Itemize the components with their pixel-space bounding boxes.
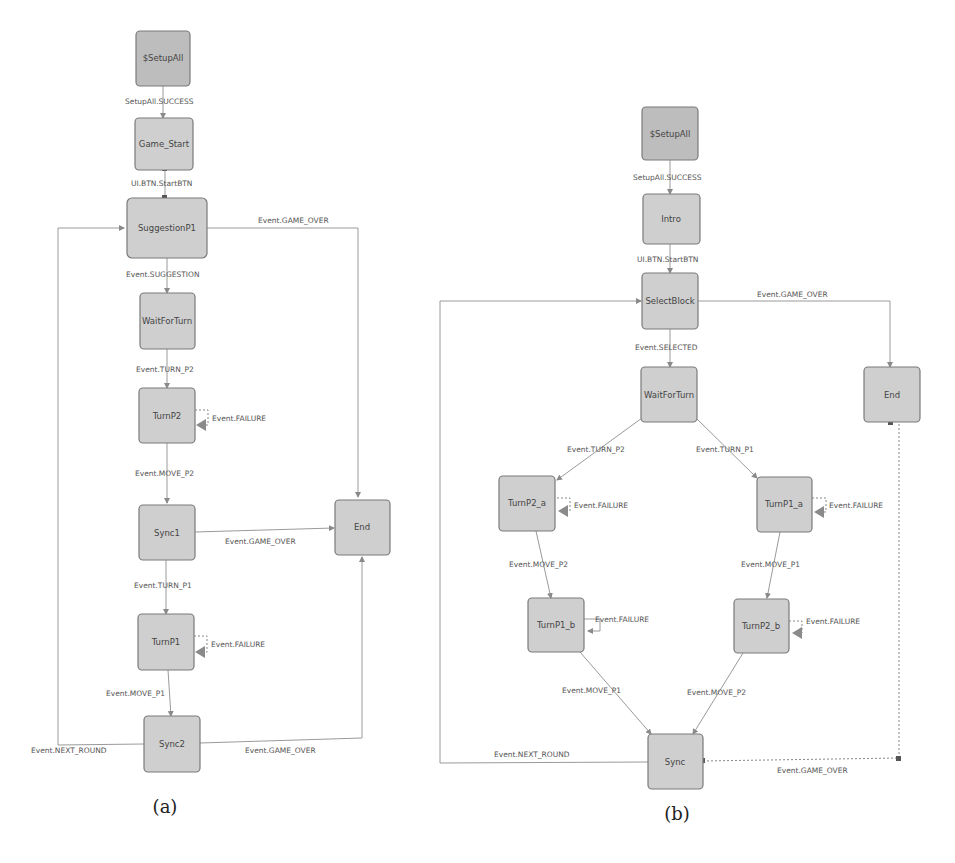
state-label: WaitForTurn — [142, 316, 192, 326]
state-node[interactable]: WaitForTurn — [140, 293, 195, 349]
self-loop-arrow-icon — [814, 506, 824, 518]
state-label: SuggestionP1 — [138, 223, 196, 233]
edge-label: Event.GAME_OVER — [245, 746, 316, 755]
state-label: TurnP2_b — [741, 621, 780, 631]
state-label: Sync2 — [159, 739, 185, 749]
edge-label: Event.TURN_P2 — [136, 365, 194, 374]
edge-label: SetupAll.SUCCESS — [125, 97, 194, 106]
panel-a: SetupAll.SUCCESS UI.BTN.StartBTN Event.G… — [31, 31, 390, 817]
edge-label: Event.FAILURE — [595, 615, 649, 624]
edge-label: Event.NEXT_ROUND — [494, 750, 570, 759]
edge-label: Event.TURN_P1 — [134, 581, 192, 590]
edge-label: Event.MOVE_P1 — [562, 686, 621, 695]
state-label: Sync — [665, 757, 686, 767]
state-node[interactable]: Sync1 — [139, 505, 195, 560]
edge-b-selectblock-end — [698, 301, 890, 367]
state-node[interactable]: $SetupAll — [642, 107, 698, 160]
state-node[interactable]: Sync — [648, 734, 703, 789]
state-label: Game_Start — [139, 139, 190, 149]
edge-label: Event.GAME_OVER — [777, 766, 848, 775]
edge-label: Event.GAME_OVER — [757, 290, 828, 299]
panel-caption: (b) — [664, 803, 690, 824]
panel-a-edges: SetupAll.SUCCESS UI.BTN.StartBTN Event.G… — [31, 86, 362, 755]
edge-label: Event.TURN_P1 — [696, 445, 754, 454]
edge-a-sync1-end — [195, 528, 334, 532]
state-node[interactable]: $SetupAll — [136, 31, 190, 86]
state-label: End — [884, 390, 900, 400]
edge-label: UI.BTN.StartBTN — [637, 255, 698, 264]
edge-label: Event.FAILURE — [574, 501, 628, 510]
edge-label: Event.TURN_P2 — [567, 445, 625, 454]
edge-a-sync2-end — [200, 557, 362, 743]
edge-label: Event.MOVE_P2 — [509, 560, 568, 569]
edge-label: Event.NEXT_ROUND — [31, 746, 107, 755]
state-label: Intro — [661, 214, 681, 224]
state-label: TurnP1_a — [764, 499, 803, 509]
state-node[interactable]: Game_Start — [135, 118, 193, 170]
state-node[interactable]: TurnP1_b — [528, 598, 584, 652]
state-node[interactable]: SelectBlock — [642, 273, 698, 329]
state-label: Sync1 — [154, 528, 180, 538]
edge-label: Event.SUGGESTION — [126, 270, 200, 279]
panel-caption: (a) — [153, 796, 178, 817]
edge-label: UI.BTN.StartBTN — [131, 179, 192, 188]
edge-label: Event.FAILURE — [212, 414, 266, 423]
port-marker — [896, 756, 901, 761]
state-node[interactable]: TurnP2_b — [734, 599, 789, 653]
self-loop-arrow-icon — [792, 627, 802, 639]
state-node[interactable]: SuggestionP1 — [127, 198, 207, 258]
edge-label: Event.FAILURE — [806, 617, 860, 626]
state-node[interactable]: TurnP2_a — [499, 476, 555, 531]
self-loop-arrow-icon — [195, 646, 205, 658]
state-label: End — [354, 522, 370, 532]
state-label: SelectBlock — [645, 296, 694, 306]
panel-b: SetupAll.SUCCESS UI.BTN.StartBTN Event.G… — [440, 107, 920, 824]
state-node[interactable]: End — [864, 367, 920, 422]
self-loop-arrow-icon — [196, 419, 206, 431]
state-node[interactable]: TurnP1_a — [757, 477, 812, 532]
panel-b-edges: SetupAll.SUCCESS UI.BTN.StartBTN Event.G… — [440, 160, 901, 775]
state-label: $SetupAll — [143, 53, 184, 63]
edge-label: Event.GAME_OVER — [225, 537, 296, 546]
edge-label: Event.GAME_OVER — [258, 216, 329, 225]
state-node[interactable]: TurnP1 — [138, 614, 194, 670]
edge-b-sync-end — [703, 423, 899, 761]
state-node[interactable]: Sync2 — [144, 716, 200, 772]
state-label: TurnP2_a — [507, 498, 546, 508]
state-label: WaitForTurn — [644, 390, 694, 400]
state-node[interactable]: Intro — [643, 194, 700, 244]
state-node[interactable]: TurnP2 — [139, 388, 195, 443]
state-label: $SetupAll — [650, 129, 691, 139]
edge-label: Event.FAILURE — [211, 640, 265, 649]
state-label: TurnP1_b — [536, 620, 575, 630]
edge-label: SetupAll.SUCCESS — [633, 173, 702, 182]
state-label: TurnP2 — [152, 411, 182, 421]
state-node[interactable]: End — [335, 500, 390, 555]
edge-label: Event.MOVE_P1 — [106, 689, 165, 698]
edge-label: Event.MOVE_P2 — [135, 469, 194, 478]
edge-a-suggestion-end — [207, 228, 358, 497]
state-label: TurnP1 — [151, 637, 181, 647]
edge-label: Event.MOVE_P2 — [687, 688, 746, 697]
edge-label: Event.FAILURE — [829, 501, 883, 510]
edge-label: Event.MOVE_P1 — [741, 560, 800, 569]
edge-label: Event.SELECTED — [635, 343, 698, 352]
self-loop-arrow-icon — [558, 505, 568, 517]
edge-a-sync2-suggestion — [58, 228, 144, 745]
state-machine-figure: SetupAll.SUCCESS UI.BTN.StartBTN Event.G… — [0, 0, 955, 863]
edge-a-turnp1-sync2 — [168, 670, 171, 716]
state-node[interactable]: WaitForTurn — [641, 367, 697, 422]
